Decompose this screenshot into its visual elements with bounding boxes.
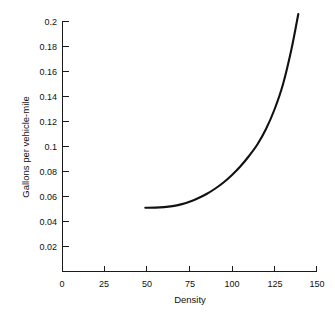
- x-tick-label-0: 0: [59, 279, 64, 289]
- y-tick-label-0.08: 0.08: [39, 167, 57, 177]
- x-tick-marks: [105, 266, 317, 272]
- y-tick-label-0.2: 0.2: [44, 17, 57, 27]
- x-tick-label-100: 100: [224, 279, 239, 289]
- y-tick-label-0.1: 0.1: [44, 142, 57, 152]
- y-tick-label-0.14: 0.14: [39, 92, 57, 102]
- line-chart: 0.2 0.18 0.16 0.14 0.12 0.1 0.08 0.06 0.…: [0, 0, 335, 316]
- y-tick-label-0.16: 0.16: [39, 67, 57, 77]
- y-tick-label-0.04: 0.04: [39, 217, 57, 227]
- y-tick-marks: [63, 22, 69, 247]
- x-tick-label-125: 125: [267, 279, 282, 289]
- x-tick-label-50: 50: [142, 279, 152, 289]
- y-axis-title: Gallons per vehicle-mile: [20, 96, 31, 197]
- y-tick-label-0.12: 0.12: [39, 117, 57, 127]
- y-tick-label-0.18: 0.18: [39, 42, 57, 52]
- x-tick-label-150: 150: [309, 279, 324, 289]
- x-tick-label-75: 75: [185, 279, 195, 289]
- chart-figure: 0.2 0.18 0.16 0.14 0.12 0.1 0.08 0.06 0.…: [0, 0, 335, 316]
- data-series-curve: [145, 14, 298, 208]
- x-tick-label-25: 25: [99, 279, 109, 289]
- x-axis-title: Density: [174, 294, 206, 305]
- y-tick-label-0.02: 0.02: [39, 242, 57, 252]
- y-tick-label-0.06: 0.06: [39, 192, 57, 202]
